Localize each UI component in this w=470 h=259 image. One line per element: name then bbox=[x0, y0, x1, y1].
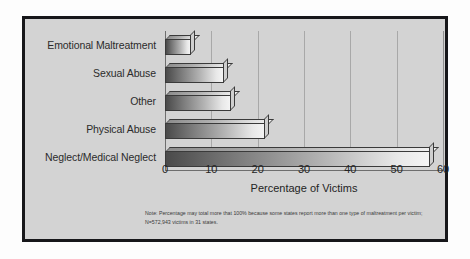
bar bbox=[165, 35, 195, 55]
x-tick-40: 40 bbox=[344, 163, 356, 175]
figure-canvas: Emotional MaltreatmentSexual AbuseOtherP… bbox=[0, 0, 470, 259]
category-label: Neglect/Medical Neglect bbox=[45, 151, 156, 163]
category-label: Sexual Abuse bbox=[93, 67, 156, 79]
plot-area: Emotional MaltreatmentSexual AbuseOtherP… bbox=[165, 31, 443, 171]
bar bbox=[165, 63, 228, 83]
bar-row: Other bbox=[165, 87, 443, 115]
bar-front-face bbox=[165, 39, 191, 55]
bar bbox=[165, 91, 235, 111]
category-label: Other bbox=[130, 95, 156, 107]
bar-row: Emotional Maltreatment bbox=[165, 31, 443, 59]
gridline-60 bbox=[443, 31, 444, 171]
chart-plot-background: Emotional MaltreatmentSexual AbuseOtherP… bbox=[25, 19, 445, 239]
category-label: Emotional Maltreatment bbox=[47, 39, 156, 51]
x-tick-10: 10 bbox=[205, 163, 217, 175]
x-axis-title: Percentage of Victims bbox=[165, 182, 443, 194]
bar-row: Sexual Abuse bbox=[165, 59, 443, 87]
category-label: Physical Abuse bbox=[86, 123, 156, 135]
x-tick-50: 50 bbox=[391, 163, 403, 175]
x-tick-30: 30 bbox=[298, 163, 310, 175]
bar-front-face bbox=[165, 67, 224, 83]
x-tick-20: 20 bbox=[252, 163, 264, 175]
x-tick-60: 60 bbox=[437, 163, 449, 175]
bar-row: Physical Abuse bbox=[165, 115, 443, 143]
chart-footnote: Note: Percentage may total more that 100… bbox=[145, 209, 435, 227]
x-tick-0: 0 bbox=[162, 163, 168, 175]
bar-front-face bbox=[165, 123, 265, 139]
bar-front-face bbox=[165, 95, 231, 111]
bar bbox=[165, 119, 269, 139]
chart-frame: Emotional MaltreatmentSexual AbuseOtherP… bbox=[22, 16, 448, 242]
